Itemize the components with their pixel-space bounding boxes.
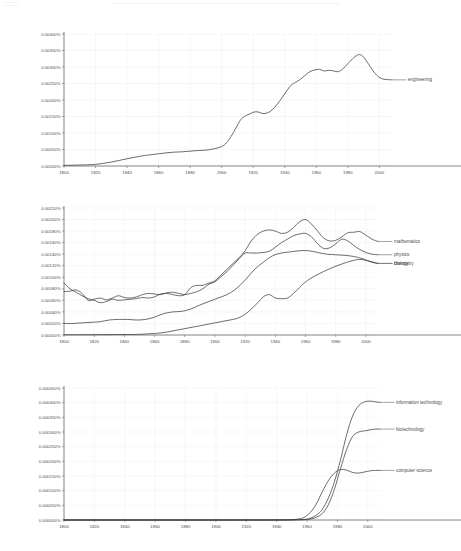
y-axis-tick-label: 0.00080% [41, 286, 61, 291]
x-axis-tick-label: 1840 [122, 170, 132, 175]
series-line-physics [64, 233, 378, 300]
x-axis-tick-label: 1820 [90, 524, 100, 529]
y-axis-tick-label: 0.000050% [39, 503, 61, 508]
series-line-mathematics [64, 219, 378, 302]
page-corner-artifact [3, 2, 19, 8]
x-axis-tick-label: 1860 [150, 524, 160, 529]
x-axis-tick-label: 1920 [248, 170, 258, 175]
series-line-information-technology [64, 401, 380, 520]
x-axis-tick-label: 1980 [333, 524, 343, 529]
x-axis-tick-label: 2000 [375, 170, 385, 175]
y-axis-tick-label: 0.000450% [39, 386, 61, 391]
series-label-computer-science: computer science [396, 468, 432, 473]
x-axis-tick-label: 1860 [150, 339, 160, 344]
chart-canvas-technology: 0.000000%0.000050%0.000100%0.000150%0.00… [0, 378, 461, 546]
y-axis-tick-label: 0.00180% [41, 229, 61, 234]
y-axis-tick-label: 0.00100% [41, 131, 61, 136]
y-axis-tick-label: 0.00100% [41, 275, 61, 280]
y-axis-tick-label: 0.00200% [41, 217, 61, 222]
x-axis-tick-label: 1940 [271, 339, 281, 344]
x-axis-tick-label: 1840 [120, 339, 130, 344]
x-axis-tick-label: 1940 [280, 170, 290, 175]
x-axis-tick-label: 1980 [343, 170, 353, 175]
ngram-chart-sciences: 0.00000%0.00020%0.00040%0.00060%0.00080%… [0, 198, 461, 358]
y-axis-tick-label: 0.00120% [41, 263, 61, 268]
x-axis-tick-label: 1840 [120, 524, 130, 529]
x-axis-tick-label: 1860 [154, 170, 164, 175]
y-axis-tick-label: 0.000000% [39, 518, 61, 523]
x-axis-tick-label: 1900 [211, 524, 221, 529]
y-axis-tick-label: 0.00250% [41, 81, 61, 86]
page-header-rule [112, 3, 340, 4]
chart-canvas-sciences: 0.00000%0.00020%0.00040%0.00060%0.00080%… [0, 198, 461, 358]
y-axis-tick-label: 0.00140% [41, 252, 61, 257]
y-axis-tick-label: 0.00000% [41, 333, 61, 338]
y-axis-tick-label: 0.000100% [39, 488, 61, 493]
x-axis-tick-label: 1880 [185, 170, 195, 175]
y-axis-tick-label: 0.000350% [39, 415, 61, 420]
series-line-engineering [64, 55, 392, 166]
x-axis-tick-label: 1920 [240, 339, 250, 344]
series-line-chemistry [64, 251, 378, 324]
x-axis-tick-label: 1900 [210, 339, 220, 344]
x-axis-tick-label: 1960 [312, 170, 322, 175]
y-axis-tick-label: 0.000150% [39, 474, 61, 479]
y-axis-tick-label: 0.000250% [39, 444, 61, 449]
y-axis-tick-label: 0.00050% [41, 147, 61, 152]
y-axis-tick-label: 0.000400% [39, 400, 61, 405]
ngram-chart-engineering: 0.00000%0.00050%0.00100%0.00150%0.00200%… [0, 26, 461, 191]
x-axis-tick-label: 1800 [59, 339, 69, 344]
y-axis-tick-label: 0.00220% [41, 206, 61, 211]
y-axis-tick-label: 0.00350% [41, 48, 61, 53]
x-axis-tick-label: 2000 [361, 339, 371, 344]
y-axis-tick-label: 0.00400% [41, 32, 61, 37]
y-axis-tick-label: 0.000200% [39, 459, 61, 464]
y-axis-tick-label: 0.00000% [41, 164, 61, 169]
y-axis-tick-label: 0.00020% [41, 321, 61, 326]
x-axis-tick-label: 1920 [242, 524, 252, 529]
x-axis-tick-label: 1980 [331, 339, 341, 344]
x-axis-tick-label: 1900 [217, 170, 227, 175]
x-axis-tick-label: 1820 [91, 170, 101, 175]
x-axis-tick-label: 1960 [301, 339, 311, 344]
x-axis-tick-label: 1880 [180, 339, 190, 344]
series-label-biotechnology: biotechnology [396, 427, 425, 432]
y-axis-tick-label: 0.00150% [41, 114, 61, 119]
ngram-chart-technology: 0.000000%0.000050%0.000100%0.000150%0.00… [0, 378, 461, 546]
y-axis-tick-label: 0.00060% [41, 298, 61, 303]
x-axis-tick-label: 1940 [272, 524, 282, 529]
x-axis-tick-label: 1800 [59, 524, 69, 529]
series-label-engineering: engineering [408, 77, 432, 82]
series-label-information-technology: information technology [396, 400, 443, 405]
series-label-biology: biology [394, 261, 409, 266]
series-label-mathematics: mathematics [394, 239, 421, 244]
y-axis-tick-label: 0.00300% [41, 65, 61, 70]
y-axis-tick-label: 0.00160% [41, 240, 61, 245]
x-axis-tick-label: 2000 [363, 524, 373, 529]
x-axis-tick-label: 1880 [181, 524, 191, 529]
y-axis-tick-label: 0.00040% [41, 310, 61, 315]
series-label-physics: physics [394, 252, 410, 257]
x-axis-tick-label: 1960 [302, 524, 312, 529]
y-axis-tick-label: 0.000300% [39, 430, 61, 435]
y-axis-tick-label: 0.00200% [41, 98, 61, 103]
chart-canvas-engineering: 0.00000%0.00050%0.00100%0.00150%0.00200%… [0, 26, 461, 191]
x-axis-tick-label: 1800 [59, 170, 69, 175]
x-axis-tick-label: 1820 [89, 339, 99, 344]
